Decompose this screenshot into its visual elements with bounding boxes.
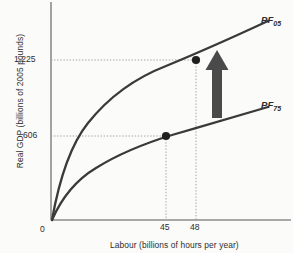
x-tick-label-48: 48 [190,222,200,232]
curve-pf75 [52,107,268,220]
curve-label-pf75-text: PF [261,99,273,110]
curve-label-pf05-text: PF [261,14,273,25]
y-axis-title-wrapper: Real GDP (billions of 2005 pounds) [9,31,27,171]
point-pf75-45 [162,132,170,140]
x-axis-title-wrapper: Labour (billions of hours per year) [110,234,290,252]
x-axis-title: Labour (billions of hours per year) [110,240,239,250]
x-tick-label-45: 45 [160,222,170,232]
curve-label-pf75: PF75 [261,99,281,112]
curve-label-pf75-subscript: 75 [273,105,281,112]
origin-label: 0 [40,224,45,234]
curve-pf05 [52,21,268,220]
y-axis-title: Real GDP (billions of 2005 pounds) [15,34,25,169]
shift-arrow [206,50,229,118]
point-pf05-48 [192,56,200,64]
curve-label-pf05-subscript: 05 [273,20,281,27]
curve-label-pf05: PF05 [261,14,281,27]
